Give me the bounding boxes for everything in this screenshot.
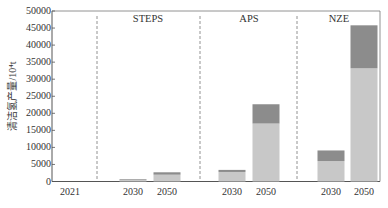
- x-label-steps-2050: 2050: [157, 187, 177, 197]
- bar-segment-lower: [154, 175, 181, 182]
- y-tick-label: 5000: [31, 159, 51, 169]
- x-label-nze-2030: 2030: [321, 187, 341, 197]
- y-tick-label: 25000: [26, 91, 51, 101]
- bar-segment-lower: [351, 68, 378, 181]
- bar-segment-upper: [154, 172, 181, 174]
- x-label-nze-2050: 2050: [354, 187, 374, 197]
- y-tick-label: 35000: [26, 57, 51, 67]
- y-tick-label: 20000: [26, 108, 51, 118]
- bar-segment-upper: [219, 170, 246, 172]
- bar-segment-upper: [318, 150, 345, 161]
- y-tick-label: 40000: [26, 40, 51, 50]
- x-label-aps-2050: 2050: [256, 187, 276, 197]
- bar-segment-lower: [219, 172, 246, 182]
- bar-segment-lower: [253, 124, 280, 182]
- y-tick-label: 0: [46, 177, 51, 187]
- bar-segment-upper: [253, 104, 280, 123]
- y-tick-label: 45000: [26, 23, 51, 33]
- x-label-steps-2030: 2030: [123, 187, 143, 197]
- x-label-aps-2030: 2030: [222, 187, 242, 197]
- bar-segment-lower: [120, 180, 147, 182]
- y-axis-label: 清洁氢产量/10⁴t: [4, 61, 19, 130]
- bars-group: [120, 25, 378, 181]
- chart-area: 0500010000150002000025000300003500040000…: [0, 0, 388, 208]
- y-tick-label: 15000: [26, 125, 51, 135]
- y-tick-label: 50000: [26, 6, 51, 16]
- bar-segment-upper: [120, 179, 147, 180]
- scenario-label-aps: APS: [239, 13, 258, 24]
- y-tick-label: 10000: [26, 142, 51, 152]
- scenario-label-nze: NZE: [329, 13, 349, 24]
- y-tick-label: 30000: [26, 74, 51, 84]
- plot-frame: [0, 0, 388, 208]
- x-label-2021: 2021: [60, 187, 80, 197]
- bar-segment-lower: [318, 161, 345, 181]
- bar-segment-upper: [351, 25, 378, 68]
- scenario-label-steps: STEPS: [133, 13, 163, 24]
